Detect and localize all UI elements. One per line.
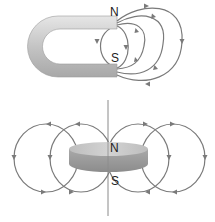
disc-magnet-top <box>69 142 148 156</box>
magnetic-field-diagram: N S <box>0 0 215 222</box>
disc-south-label: S <box>111 174 119 188</box>
disc-north-label: N <box>110 141 119 155</box>
horseshoe-north-label: N <box>110 5 119 19</box>
horseshoe-south-label: S <box>111 51 119 65</box>
disc-magnet-group: N S <box>12 100 208 216</box>
horseshoe-magnet <box>28 16 117 77</box>
horseshoe-magnet-group: N S <box>28 4 185 87</box>
